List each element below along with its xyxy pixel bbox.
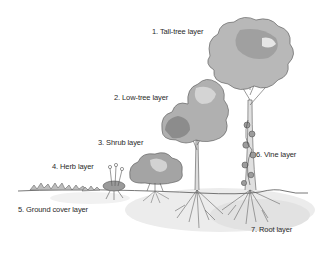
- label-tall-tree-layer: 1. Tall-tree layer: [152, 27, 203, 36]
- label-root-layer: 7. Root layer: [251, 225, 292, 234]
- label-shrub-layer: 3. Shrub layer: [98, 138, 143, 147]
- label-low-tree-layer: 2. Low-tree layer: [114, 93, 168, 102]
- ground-cover-plants: [30, 183, 100, 191]
- forest-layers-diagram: 1. Tall-tree layer 2. Low-tree layer 3. …: [0, 0, 324, 255]
- label-herb-layer: 4. Herb layer: [52, 162, 94, 171]
- label-ground-cover-layer: 5. Ground cover layer: [18, 205, 88, 214]
- label-vine-layer: 6. Vine layer: [256, 150, 296, 159]
- forest-illustration: [0, 0, 324, 255]
